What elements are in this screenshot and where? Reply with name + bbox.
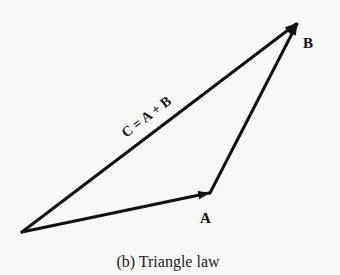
triangle-law-diagram: A B C = A + B (b) Triangle law — [0, 0, 340, 275]
figure-caption: (b) Triangle law — [116, 253, 220, 271]
vector-b-arrow — [210, 24, 297, 193]
vector-diagram: A B C = A + B (b) Triangle law — [0, 0, 340, 275]
vector-c-arrow — [22, 24, 296, 232]
vector-c-label: C = A + B — [119, 93, 174, 140]
vector-b-label: B — [303, 35, 313, 51]
vector-a-label: A — [200, 210, 211, 226]
